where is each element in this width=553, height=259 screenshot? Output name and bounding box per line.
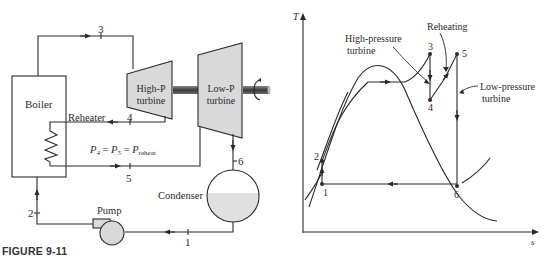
ts-state-3: 3 bbox=[428, 42, 433, 52]
state-2-label: 2 bbox=[28, 208, 34, 219]
hp-turbine-label-line2: turbine bbox=[133, 95, 169, 107]
ts-state-4: 4 bbox=[428, 103, 433, 113]
lp-turbine-label: Low-P turbine bbox=[202, 83, 240, 107]
pipe-state-2 bbox=[37, 177, 93, 224]
hp-turbine-label-line1: High-P bbox=[133, 83, 169, 95]
pipe-state-3 bbox=[38, 36, 133, 76]
reheat-pressure-equation: P4 = P5 = Preheat bbox=[90, 145, 156, 157]
process-4-5 bbox=[430, 54, 457, 100]
ts-state-2: 2 bbox=[314, 152, 319, 162]
hp-annotation-line2: turbine bbox=[345, 45, 402, 57]
state-3-label: 3 bbox=[98, 24, 104, 35]
pipe-state-1 bbox=[125, 222, 233, 232]
state-6-label: 6 bbox=[238, 156, 244, 167]
figure-caption: FIGURE 9-11 bbox=[2, 245, 67, 257]
state-1-label: 1 bbox=[185, 237, 191, 248]
ts-diagram bbox=[300, 13, 539, 235]
output-shaft bbox=[243, 86, 270, 94]
state-4-label: 4 bbox=[127, 112, 133, 123]
condenser-label: Condenser bbox=[158, 191, 203, 202]
state-5-label: 5 bbox=[126, 173, 132, 184]
process-2-3 bbox=[322, 54, 430, 161]
pressure-line-high bbox=[317, 92, 348, 170]
ts-state-1: 1 bbox=[323, 188, 328, 198]
hp-turbine-annotation: High-pressure turbine bbox=[345, 33, 402, 57]
boiler-label: Boiler bbox=[25, 99, 53, 110]
eq-subreheat: reheat bbox=[139, 149, 156, 157]
shaft bbox=[173, 86, 198, 94]
lp-turbine-annotation: Low-pressure turbine bbox=[480, 81, 535, 105]
reheater-label: Reheater bbox=[68, 113, 105, 124]
condenser bbox=[205, 170, 261, 225]
power-plant-schematic bbox=[12, 33, 271, 245]
lp-annotation-line1: Low-pressure bbox=[480, 81, 535, 93]
hp-turbine-label: High-P turbine bbox=[133, 83, 169, 107]
state-points bbox=[320, 52, 459, 188]
ts-state-6: 6 bbox=[454, 190, 459, 200]
lp-annotation-line2: turbine bbox=[480, 93, 535, 105]
hp-annotation-line1: High-pressure bbox=[345, 33, 402, 45]
t-axis-label: T bbox=[293, 12, 299, 22]
figure-canvas bbox=[0, 0, 553, 259]
saturation-dome bbox=[309, 66, 497, 222]
lp-turbine-label-line2: turbine bbox=[202, 95, 240, 107]
s-axis-label: s bbox=[531, 238, 535, 247]
lp-leader bbox=[461, 86, 478, 92]
lp-turbine-label-line1: Low-P bbox=[202, 83, 240, 95]
boiler-box bbox=[12, 76, 66, 177]
pump-label: Pump bbox=[97, 206, 122, 217]
pump bbox=[93, 219, 124, 245]
ts-state-5: 5 bbox=[462, 49, 467, 59]
reheat-leader bbox=[440, 33, 446, 70]
reheating-annotation: Reheating bbox=[427, 22, 468, 32]
